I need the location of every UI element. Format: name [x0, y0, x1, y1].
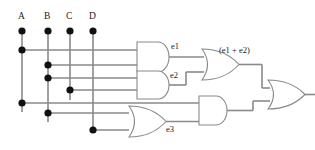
- signal-label-e1: e1: [171, 42, 179, 51]
- signal-label-e2: e2: [170, 71, 178, 80]
- wire-e1-plus-e2: [239, 65, 270, 89]
- junction-b-row3: [44, 74, 51, 81]
- circuit-canvas: [0, 0, 315, 150]
- input-label-a: A: [18, 12, 25, 22]
- input-label-c: C: [66, 12, 72, 22]
- input-terminal-a: [18, 27, 25, 34]
- signal-label-e3: e3: [166, 125, 174, 134]
- junction-a-row5: [18, 99, 25, 106]
- input-terminal-b: [44, 27, 51, 34]
- input-label-d: D: [89, 12, 96, 22]
- junction-a-row1: [18, 46, 25, 53]
- input-label-b: B: [44, 12, 50, 22]
- input-terminal-d: [89, 27, 96, 34]
- junction-d-row7: [89, 126, 96, 133]
- signal-label-e1-plus-e2: (e1 + e2): [219, 46, 250, 55]
- input-terminal-c: [66, 27, 73, 34]
- logic-circuit-diagram: A B C D e1 e2 e3 (e1 + e2): [0, 0, 315, 150]
- gate-or-e3: [129, 106, 166, 137]
- gate-and-e1: [137, 42, 169, 72]
- gate-or-final: [268, 80, 305, 109]
- junction-b-row2: [44, 61, 51, 68]
- junction-b-row6: [44, 109, 51, 116]
- gate-and-e2: [137, 71, 169, 99]
- gate-and-lower: [199, 96, 227, 125]
- junction-c-row4: [66, 86, 73, 93]
- wire-and-lower-out: [227, 101, 270, 111]
